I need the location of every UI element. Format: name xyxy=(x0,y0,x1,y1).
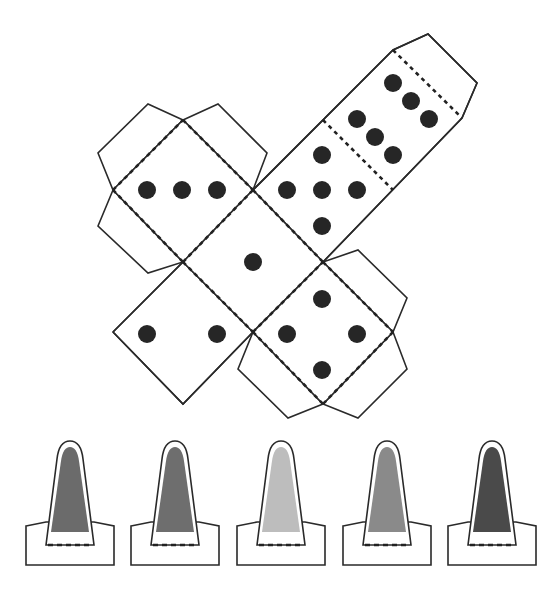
pip xyxy=(208,325,226,343)
pip xyxy=(138,325,156,343)
pip xyxy=(173,181,191,199)
pawn-4 xyxy=(343,441,431,565)
pip xyxy=(402,92,420,110)
pip xyxy=(313,290,331,308)
die-net xyxy=(98,34,477,418)
pip xyxy=(278,181,296,199)
pip xyxy=(138,181,156,199)
pawn-5 xyxy=(448,441,536,565)
pip xyxy=(313,217,331,235)
pawn-3 xyxy=(237,441,325,565)
pip xyxy=(208,181,226,199)
face-one xyxy=(244,253,262,271)
game-canvas xyxy=(0,0,560,594)
pip xyxy=(348,110,366,128)
pip xyxy=(348,181,366,199)
pawn-1 xyxy=(26,441,114,565)
pip xyxy=(244,253,262,271)
pip xyxy=(313,146,331,164)
pip xyxy=(384,74,402,92)
face-three xyxy=(138,181,226,199)
pip xyxy=(366,128,384,146)
pip xyxy=(313,361,331,379)
pip xyxy=(384,146,402,164)
pip xyxy=(278,325,296,343)
pawn-row xyxy=(26,441,536,565)
pip xyxy=(420,110,438,128)
pawn-2 xyxy=(131,441,219,565)
pip xyxy=(348,325,366,343)
pip xyxy=(313,181,331,199)
